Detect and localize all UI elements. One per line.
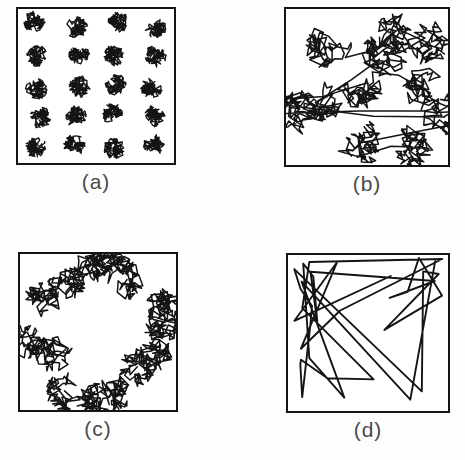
panel-trajectory-d — [288, 255, 448, 411]
panel-caption-d: (d) — [286, 417, 450, 443]
panel-d: (d) — [0, 0, 465, 460]
long-step-walk — [294, 258, 442, 400]
figure-root: (a)(b)(c)(d) — [0, 0, 465, 460]
panel-frame-d — [286, 253, 450, 413]
